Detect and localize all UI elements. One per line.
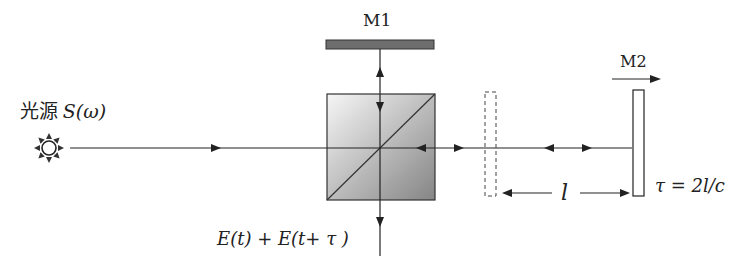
source-label: 光源 S(ω) xyxy=(20,96,106,123)
dashed-plate xyxy=(485,92,496,196)
output-label: E(t) + E(t+ τ ) xyxy=(217,228,349,249)
length-label: l xyxy=(561,180,568,205)
source-label-cjk: 光源 xyxy=(20,100,58,122)
mirror-m2-label: M2 xyxy=(620,52,647,71)
diagram-canvas xyxy=(0,0,750,271)
mirror-m2 xyxy=(633,90,644,196)
interferometer-diagram: 光源 S(ω) M1 M2 E(t) + E(t+ τ ) l τ = 2l/c xyxy=(0,0,750,271)
delay-formula: τ = 2l/c xyxy=(655,175,725,196)
light-source-icon xyxy=(34,133,64,163)
mirror-m1-label: M1 xyxy=(363,10,391,30)
source-label-func: S(ω) xyxy=(63,100,106,122)
mirror-m1 xyxy=(326,40,434,49)
